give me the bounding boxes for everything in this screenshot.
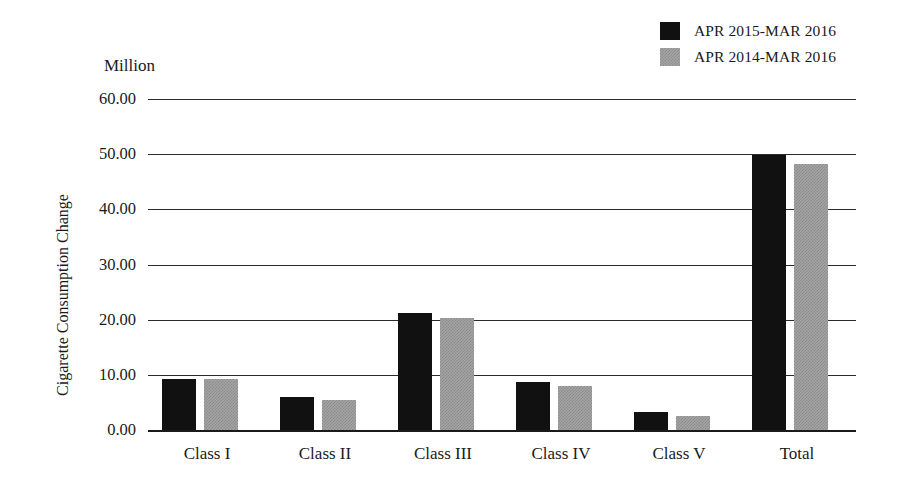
- x-tick-label: Class V: [620, 444, 738, 464]
- x-axis-labels: Class IClass IIClass IIIClass IVClass VT…: [148, 444, 856, 472]
- y-tick-label: 20.00: [64, 310, 136, 330]
- bar: [558, 386, 592, 430]
- bar: [398, 313, 432, 430]
- y-tick-label: 60.00: [64, 89, 136, 109]
- bar-group: [266, 99, 384, 430]
- legend-swatch-icon-series-1: [660, 22, 680, 40]
- bar: [162, 379, 196, 430]
- bar: [752, 155, 786, 430]
- bar: [516, 382, 550, 430]
- bar: [794, 164, 828, 430]
- y-tick-label: 30.00: [64, 255, 136, 275]
- x-tick-label: Total: [738, 444, 856, 464]
- x-tick-label: Class III: [384, 444, 502, 464]
- legend-label-series-2: APR 2014-MAR 2016: [694, 48, 836, 66]
- bar: [322, 400, 356, 430]
- bar: [676, 416, 710, 430]
- bar-group: [620, 99, 738, 430]
- y-tick-label: 0.00: [64, 420, 136, 440]
- bar: [634, 412, 668, 430]
- y-tick-label: 10.00: [64, 365, 136, 385]
- bar: [440, 318, 474, 430]
- y-axis-unit-label: Million: [104, 56, 155, 76]
- x-tick-label: Class I: [148, 444, 266, 464]
- bar: [204, 379, 238, 430]
- legend-entry-series-1: APR 2015-MAR 2016: [660, 18, 904, 44]
- x-tick-label: Class IV: [502, 444, 620, 464]
- chart-legend: APR 2015-MAR 2016 APR 2014-MAR 2016: [660, 18, 904, 70]
- bar: [280, 397, 314, 430]
- bar-chart: APR 2015-MAR 2016 APR 2014-MAR 2016 Mill…: [0, 0, 904, 495]
- y-tick-label: 40.00: [64, 199, 136, 219]
- bar-group: [502, 99, 620, 430]
- y-axis-title: Cigarette Consumption Change: [54, 149, 82, 441]
- bar-group: [738, 99, 856, 430]
- bar-series-container: [148, 99, 856, 430]
- legend-swatch-icon-series-2: [660, 48, 680, 66]
- y-axis-title-container: Cigarette Consumption Change: [18, 140, 48, 430]
- legend-entry-series-2: APR 2014-MAR 2016: [660, 44, 904, 70]
- bar-group: [384, 99, 502, 430]
- bar-group: [148, 99, 266, 430]
- y-tick-label: 50.00: [64, 144, 136, 164]
- x-tick-label: Class II: [266, 444, 384, 464]
- legend-label-series-1: APR 2015-MAR 2016: [694, 22, 836, 40]
- gridline-0.00: [148, 430, 856, 432]
